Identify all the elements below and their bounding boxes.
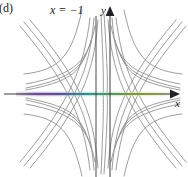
panel-label: (d) (0, 2, 13, 14)
curve-nw-b (20, 26, 90, 170)
curve-sw-b (20, 18, 90, 162)
curve-ll-1 (26, 104, 95, 162)
x-axis-label: x (175, 98, 180, 109)
curve-ll-4 (24, 114, 82, 176)
y-axis-arrowhead (106, 6, 115, 16)
curve-se-b (116, 18, 186, 162)
curve-lr-1 (111, 104, 180, 162)
y-axis-label: y (101, 5, 106, 16)
curve-ul-1 (26, 26, 95, 84)
hyperbola-family-figure (0, 0, 188, 177)
curve-ur-1 (111, 26, 180, 84)
vertical-line-label: x = −1 (50, 4, 84, 16)
curve-lr-4 (124, 114, 182, 176)
